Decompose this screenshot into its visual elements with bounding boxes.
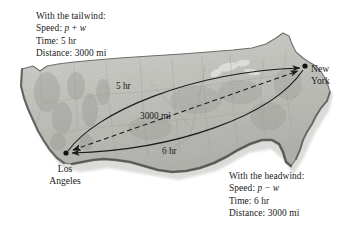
route-return-headwind-arc xyxy=(72,70,303,153)
city-label-new-york-line1: New xyxy=(311,63,355,75)
city-label-los-angeles-line2: Angeles xyxy=(30,175,100,187)
city-label-new-york: New York xyxy=(311,63,355,86)
headwind-time: Time: 6 hr xyxy=(229,195,304,207)
tailwind-speed: Speed: p + w xyxy=(36,22,106,34)
route-great-circle-distance-line xyxy=(73,71,298,150)
route-label-outbound-time: 5 hr xyxy=(116,81,131,91)
headwind-speed: Speed: p − w xyxy=(229,182,304,194)
tailwind-time: Time: 5 hr xyxy=(36,35,106,47)
airplane-wind-word-problem-figure: With the tailwind: Speed: p + w Time: 5 … xyxy=(0,0,355,229)
tailwind-speed-operator: + xyxy=(69,23,79,33)
headwind-heading: With the headwind: xyxy=(229,170,304,182)
city-dot-los-angeles xyxy=(63,150,68,155)
city-label-new-york-line2: York xyxy=(311,75,355,87)
headwind-speed-operator: − xyxy=(262,183,272,193)
headwind-speed-label: Speed: xyxy=(229,183,258,193)
route-outbound-tailwind-arc xyxy=(68,68,300,151)
route-label-straight-distance: 3000 mi xyxy=(140,111,171,121)
tailwind-speed-label: Speed: xyxy=(36,23,65,33)
tailwind-distance: Distance: 3000 mi xyxy=(36,47,106,59)
city-label-los-angeles-line1: Los xyxy=(30,163,100,175)
city-label-los-angeles: Los Angeles xyxy=(30,163,100,186)
headwind-speed-variable-w: w xyxy=(273,183,279,193)
headwind-info-block: With the headwind: Speed: p − w Time: 6 … xyxy=(229,170,304,220)
city-dot-new-york xyxy=(302,63,307,68)
tailwind-info-block: With the tailwind: Speed: p + w Time: 5 … xyxy=(36,10,106,60)
route-label-return-time: 6 hr xyxy=(162,146,177,156)
tailwind-heading: With the tailwind: xyxy=(36,10,106,22)
tailwind-speed-variable-w: w xyxy=(80,23,86,33)
headwind-distance: Distance: 3000 mi xyxy=(229,207,304,219)
